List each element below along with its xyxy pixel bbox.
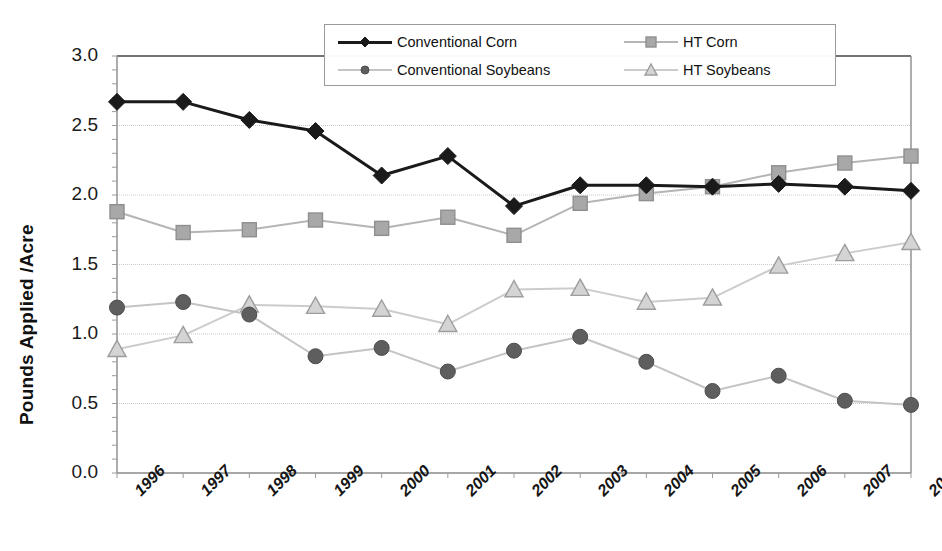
y-axis-tick-label: 1.0 (44, 322, 98, 344)
legend-item-label: HT Soybeans (683, 62, 771, 78)
data-point-square (838, 156, 852, 170)
data-point-square (110, 205, 124, 219)
data-point-square (441, 210, 455, 224)
y-axis-tick-label: 2.5 (44, 114, 98, 136)
legend-marker-triangle-icon (624, 63, 678, 77)
legend-item-label: Conventional Soybeans (397, 62, 550, 78)
data-point-circle (176, 295, 191, 310)
data-point-square (507, 228, 521, 242)
y-axis-tick-label: 0.0 (44, 461, 98, 483)
legend-item-label: Conventional Corn (397, 34, 517, 50)
data-point-circle (705, 383, 720, 398)
legend-item-ht-corn[interactable]: HT Corn (624, 34, 738, 50)
data-point-circle (573, 329, 588, 344)
data-point-square (176, 226, 190, 240)
y-axis-tick-label: 1.5 (44, 253, 98, 275)
legend-item-label: HT Corn (683, 34, 738, 50)
data-point-circle (639, 354, 654, 369)
data-point-circle (771, 368, 786, 383)
data-point-diamond (572, 177, 589, 194)
legend-item-conventional-corn[interactable]: Conventional Corn (338, 34, 517, 50)
legend-marker-square-icon (624, 35, 678, 49)
legend-marker-circle-icon (338, 63, 392, 77)
data-point-diamond (903, 182, 920, 199)
data-point-circle (440, 364, 455, 379)
data-point-diamond (836, 178, 853, 195)
data-point-triangle (704, 289, 722, 305)
data-point-circle (361, 66, 369, 74)
series-line (117, 102, 911, 206)
series-conventional-corn (109, 93, 920, 214)
legend-item-ht-soybeans[interactable]: HT Soybeans (624, 62, 771, 78)
y-axis-tick-label: 2.0 (44, 183, 98, 205)
data-point-triangle (645, 64, 657, 75)
data-point-circle (110, 300, 125, 315)
series-ht-corn (110, 149, 918, 242)
legend-item-conventional-soybeans[interactable]: Conventional Soybeans (338, 62, 550, 78)
line-chart: Pounds Applied /Acre 0.00.51.01.52.02.53… (0, 0, 942, 551)
data-point-circle (374, 340, 389, 355)
data-point-diamond (109, 93, 126, 110)
data-point-diamond (175, 93, 192, 110)
data-point-square (242, 223, 256, 237)
series-line (117, 156, 911, 235)
data-point-circle (242, 307, 257, 322)
data-point-diamond (360, 37, 370, 47)
legend-symbol (624, 62, 678, 78)
data-point-triangle (571, 279, 589, 295)
data-point-circle (507, 343, 522, 358)
data-point-circle (904, 397, 919, 412)
legend-marker-diamond-icon (338, 35, 392, 49)
y-axis-tick-label: 0.5 (44, 392, 98, 414)
series-ht-soybeans (108, 233, 920, 356)
data-point-circle (837, 393, 852, 408)
data-point-square (375, 221, 389, 235)
data-point-square (573, 196, 587, 210)
data-point-square (646, 37, 656, 47)
series-conventional-soybeans (110, 295, 919, 413)
data-point-circle (308, 349, 323, 364)
legend-symbol (338, 34, 392, 50)
data-point-diamond (373, 167, 390, 184)
data-point-triangle (902, 233, 920, 249)
data-point-square (309, 213, 323, 227)
data-point-square (904, 149, 918, 163)
y-axis-tick-label: 3.0 (44, 44, 98, 66)
legend-symbol (624, 34, 678, 50)
legend-symbol (338, 62, 392, 78)
